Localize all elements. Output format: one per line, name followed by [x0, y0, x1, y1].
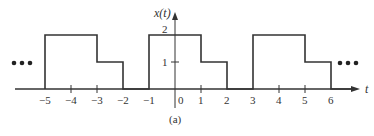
- svg-text:5: 5: [302, 94, 308, 106]
- x-tick-labels: −5 −4 −3 −2 −1 0 1 2 3 4 5 6: [39, 94, 334, 106]
- svg-text:6: 6: [328, 94, 334, 106]
- svg-text:−1: −1: [143, 94, 155, 106]
- y-tick-label-1: 1: [162, 56, 168, 68]
- signal-waveform: [45, 35, 352, 89]
- x-axis-label: t: [365, 82, 369, 96]
- left-ellipsis-icon: [12, 61, 33, 66]
- svg-text:3: 3: [250, 94, 256, 106]
- y-tick-label-2: 2: [162, 23, 168, 35]
- x-axis-arrow-icon: [351, 86, 360, 92]
- y-axis-label: x(t): [153, 6, 171, 20]
- svg-text:−3: −3: [91, 94, 103, 106]
- svg-text:4: 4: [276, 94, 282, 106]
- svg-text:−4: −4: [65, 94, 77, 106]
- svg-text:0: 0: [178, 94, 184, 106]
- svg-text:2: 2: [224, 94, 230, 106]
- svg-text:−2: −2: [117, 94, 129, 106]
- figure-caption: (a): [169, 113, 182, 126]
- y-axis-arrow-icon: [172, 12, 178, 20]
- svg-text:1: 1: [198, 94, 204, 106]
- right-ellipsis-icon: [338, 61, 359, 66]
- svg-text:−5: −5: [39, 94, 51, 106]
- signal-diagram: t x(t) 1 2 −5 −4 −3 −2 −1 0 1 2 3 4 5 6: [0, 0, 374, 136]
